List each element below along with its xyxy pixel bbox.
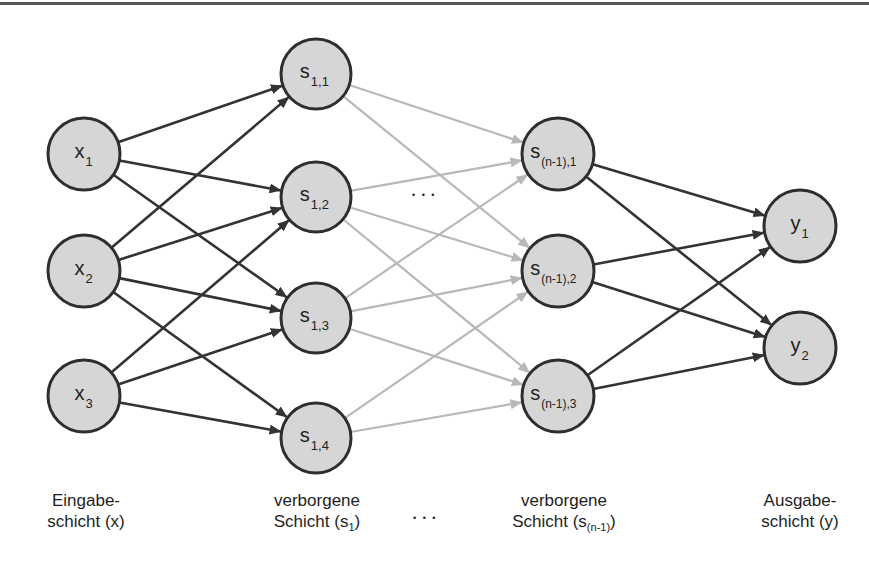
edge-x3-to-s13	[118, 329, 282, 384]
layer-label-hidden1-close: )	[355, 512, 361, 531]
layer-label-hidden1-text: Schicht (s	[274, 512, 349, 531]
edge-x3-to-s14	[119, 402, 280, 431]
node-x3: x3	[48, 360, 120, 432]
edge-x3-to-s12	[111, 220, 288, 372]
edge-s14-to-sn3	[350, 402, 521, 432]
layer-label-input-line2: schicht (x)	[36, 511, 136, 532]
edges-group	[111, 85, 771, 432]
layer-label-output: Ausgabe- schicht (y)	[746, 490, 854, 532]
layer-label-hiddenN-line2: Schicht (s(n-1))	[494, 511, 634, 538]
edge-sn2-to-y2	[592, 282, 764, 337]
layer-label-hiddenN-close: )	[610, 512, 616, 531]
node-x1: x1	[48, 118, 120, 190]
layer-label-input-line1: Eingabe-	[36, 490, 136, 511]
layer-label-hiddenN-text: Schicht (s	[512, 512, 587, 531]
node-x2: x2	[48, 235, 120, 307]
edge-x2-to-s12	[118, 208, 281, 260]
edge-sn1-to-y2	[586, 177, 771, 325]
edge-sn1-to-y1	[593, 164, 765, 215]
node-sn1: s(n-1),1	[522, 118, 594, 190]
node-y2: y2	[764, 312, 836, 384]
node-s11: s1,1	[281, 39, 351, 109]
edge-s13-to-sn3	[349, 329, 522, 385]
edge-s14-to-sn2	[345, 292, 528, 418]
middle-ellipsis: • • •	[412, 190, 436, 200]
edge-x2-to-s14	[113, 292, 287, 417]
edge-s13-to-sn2	[350, 278, 521, 311]
node-s14: s1,4	[281, 403, 351, 473]
edge-sn3-to-y1	[587, 247, 769, 375]
node-y1: y1	[764, 190, 836, 262]
node-s13: s1,3	[281, 283, 351, 353]
node-sn2: s(n-1),2	[522, 235, 594, 307]
layer-label-hiddenN-sub: (n-1)	[587, 521, 610, 533]
edge-s12-to-sn2	[349, 207, 522, 260]
edge-sn2-to-y1	[593, 233, 763, 265]
layer-label-hiddenN-line1: verborgene	[494, 490, 634, 511]
layer-label-input: Eingabe- schicht (x)	[36, 490, 136, 532]
layer-label-hidden1-line1: verborgene	[252, 490, 382, 511]
nodes-group: x1x2x3s1,1s1,2s1,3s1,4s(n-1),1s(n-1),2s(…	[48, 39, 836, 473]
node-s12: s1,2	[281, 162, 351, 232]
edge-x2-to-s13	[119, 278, 280, 311]
layer-label-output-line1: Ausgabe-	[746, 490, 854, 511]
layer-label-hidden1-line2: Schicht (s1)	[252, 511, 382, 538]
bottom-ellipsis: • • •	[413, 513, 437, 523]
edge-s12-to-sn1	[350, 160, 521, 190]
node-sn3: s(n-1),3	[522, 360, 594, 432]
edge-x1-to-s12	[119, 161, 280, 191]
edge-sn3-to-y2	[593, 355, 763, 389]
edge-s11-to-sn1	[349, 85, 523, 142]
edge-s11-to-sn2	[343, 96, 529, 248]
edge-s12-to-sn3	[343, 219, 529, 372]
layer-label-hidden1: verborgene Schicht (s1)	[252, 490, 382, 538]
edge-x2-to-s11	[111, 97, 288, 247]
layer-label-output-line2: schicht (y)	[746, 511, 854, 532]
edge-x1-to-s11	[118, 86, 282, 143]
layer-label-hiddenN: verborgene Schicht (s(n-1))	[494, 490, 634, 538]
edge-x1-to-s13	[113, 175, 286, 297]
